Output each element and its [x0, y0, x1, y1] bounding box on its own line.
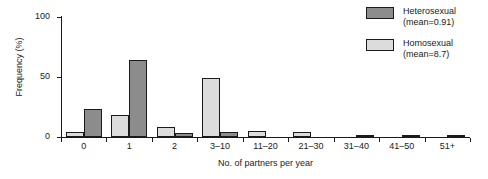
bar	[129, 60, 147, 137]
legend-item: Heterosexual(mean=0.91)	[366, 6, 488, 29]
y-tick-label-wrap: 0	[0, 137, 56, 138]
bar	[66, 132, 84, 137]
y-tick-label-wrap: 100	[0, 17, 56, 18]
x-tick-label: 0	[81, 142, 86, 152]
bar	[356, 135, 374, 137]
x-tick-label: 21–30	[298, 142, 323, 152]
bar	[175, 133, 193, 137]
x-tick-mark	[106, 138, 107, 142]
legend-label: Homosexual(mean=8.7)	[403, 38, 453, 61]
bar	[402, 135, 420, 137]
x-tick-label: 31–40	[344, 142, 369, 152]
legend-label-mean: (mean=0.91)	[403, 17, 456, 28]
x-tick-mark	[425, 138, 426, 142]
x-tick-mark	[379, 138, 380, 142]
bar	[157, 127, 175, 137]
legend-label-name: Heterosexual	[403, 6, 456, 17]
y-tick-label-wrap: 50	[0, 77, 56, 78]
legend-label-name: Homosexual	[403, 38, 453, 49]
x-axis-title: No. of partners per year	[61, 158, 470, 168]
bar	[111, 115, 129, 137]
legend-swatch	[366, 39, 394, 51]
x-tick-label: 2	[172, 142, 177, 152]
bar	[447, 135, 465, 137]
x-tick-mark	[334, 138, 335, 142]
x-axis-line	[61, 137, 470, 138]
x-tick-mark	[288, 138, 289, 142]
x-tick-label: 1	[127, 142, 132, 152]
y-axis-title: Frequency (%)	[14, 17, 24, 117]
bar	[220, 132, 238, 137]
x-tick-mark	[243, 138, 244, 142]
y-tick-label: 50	[40, 72, 50, 81]
frequency-histogram-figure: 050100 Frequency (%) 0123–1011–2021–3031…	[0, 0, 488, 179]
bar	[202, 78, 220, 137]
legend-item: Homosexual(mean=8.7)	[366, 38, 488, 61]
bar	[248, 131, 266, 137]
legend-swatch	[366, 7, 394, 19]
x-tick-label: 41–50	[389, 142, 414, 152]
x-tick-mark	[197, 138, 198, 142]
x-tick-mark	[470, 138, 471, 142]
chart-legend: Heterosexual(mean=0.91)Homosexual(mean=8…	[366, 6, 488, 69]
x-tick-mark	[152, 138, 153, 142]
legend-label-mean: (mean=8.7)	[403, 49, 453, 60]
y-tick-label: 0	[45, 132, 50, 141]
bar	[84, 109, 102, 137]
x-tick-mark	[61, 138, 62, 142]
x-tick-label: 51+	[440, 142, 455, 152]
legend-label: Heterosexual(mean=0.91)	[403, 6, 456, 29]
x-tick-label: 3–10	[210, 142, 230, 152]
y-tick-label: 100	[35, 12, 50, 21]
bar	[293, 132, 311, 137]
x-tick-label: 11–20	[253, 142, 277, 152]
